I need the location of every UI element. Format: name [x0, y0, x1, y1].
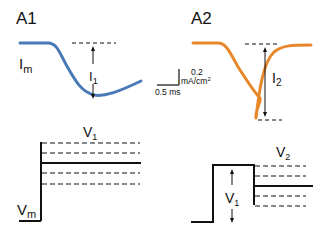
arrowhead-icon	[263, 47, 267, 52]
a2-step2-label: V2	[276, 144, 290, 162]
scale-bar-vertical-unit: mA/cm2	[181, 76, 211, 86]
figure-canvas: A1 Im I1 V1 Vm 0.2 mA/cm2 0.5 ms A2 I2 V…	[0, 0, 331, 241]
a1-step-label: V1	[83, 124, 97, 142]
panel-title-a2: A2	[191, 9, 212, 28]
arrowhead-icon	[230, 169, 234, 174]
a2-step1-label: V1	[225, 190, 239, 208]
a1-current-trace	[20, 43, 141, 95]
a2-amplitude-label: I2	[272, 70, 282, 88]
a1-amplitude-label: I1	[89, 69, 98, 86]
a2-prepulse-trace	[191, 165, 254, 222]
a1-current-label: Im	[19, 55, 32, 75]
scale-bar-horizontal-label: 0.5 ms	[155, 87, 181, 97]
arrowhead-icon	[263, 112, 267, 117]
panel-title-a1: A1	[16, 9, 37, 28]
arrowhead-icon	[91, 46, 95, 51]
a1-voltage-label: Vm	[17, 201, 36, 220]
arrowhead-icon	[230, 218, 234, 223]
